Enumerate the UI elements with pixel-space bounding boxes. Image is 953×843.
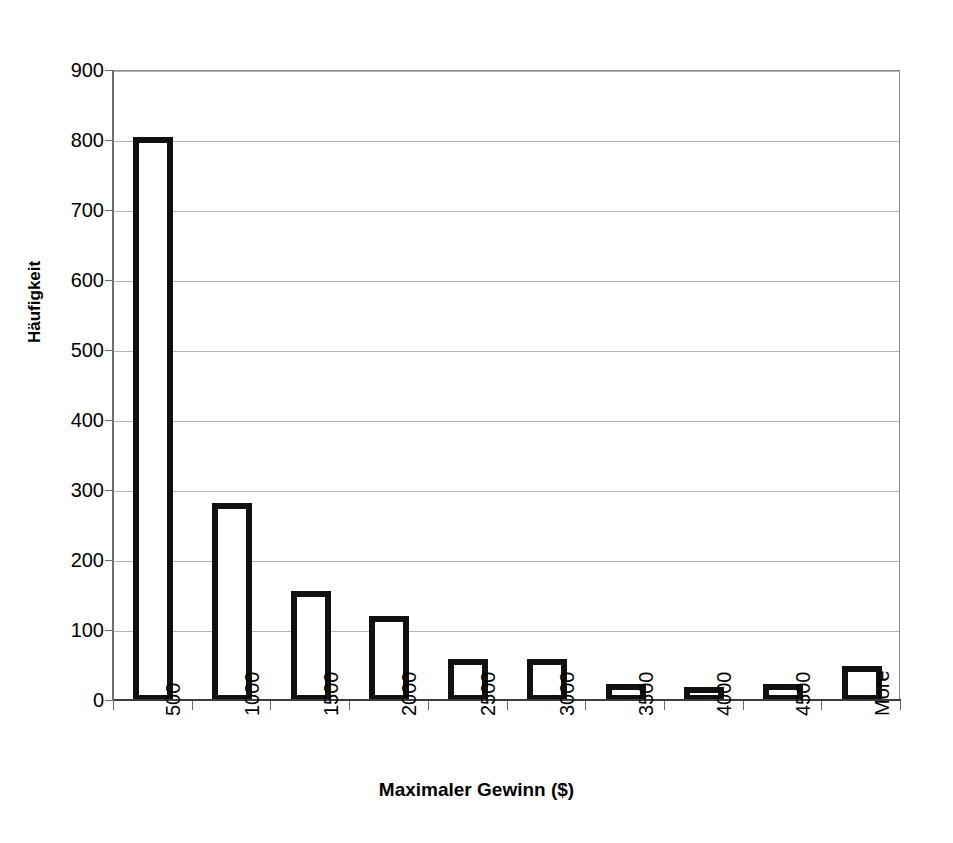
x-tick-mark-end: [900, 701, 901, 710]
x-tick-mark-1: [192, 701, 193, 710]
x-tick-mark-8: [743, 701, 744, 710]
gridline-300: [114, 491, 899, 492]
plot-area: [113, 70, 900, 700]
y-tick-label-900: 900: [52, 60, 104, 80]
y-tick-label-700: 700: [52, 200, 104, 220]
x-tick-mark-2: [270, 701, 271, 710]
y-tick-label-200: 200: [52, 550, 104, 570]
y-tick-label-400: 400: [52, 410, 104, 430]
y-tick-label-500: 500: [52, 340, 104, 360]
gridline-800: [114, 141, 899, 142]
x-tick-label-500: 500: [162, 626, 184, 716]
x-tick-mark-7: [664, 701, 665, 710]
y-tick-label-600: 600: [52, 270, 104, 290]
x-tick-mark-0: [113, 701, 114, 710]
gridline-700: [114, 211, 899, 212]
x-tick-label-3500: 3500: [635, 626, 657, 716]
x-tick-label-4500: 4500: [792, 626, 814, 716]
x-tick-mark-5: [507, 701, 508, 710]
x-tick-label-1500: 1500: [320, 626, 342, 716]
y-axis-line: [112, 70, 114, 701]
x-tick-mark-9: [821, 701, 822, 710]
x-tick-label-More: More: [871, 626, 893, 716]
x-tick-label-1000: 1000: [241, 626, 263, 716]
gridline-500: [114, 351, 899, 352]
gridline-400: [114, 421, 899, 422]
x-tick-label-2000: 2000: [398, 626, 420, 716]
y-axis-tick-labels: 0 100 200 300 400 500 600 700 800 900: [52, 0, 104, 843]
chart-canvas: Häufigkeit 0 100 200 300 400 500 600 700…: [0, 0, 953, 843]
x-tick-label-3000: 3000: [556, 626, 578, 716]
x-axis-title: Maximaler Gewinn ($): [0, 779, 953, 801]
gridline-900: [114, 71, 899, 72]
x-tick-mark-6: [585, 701, 586, 710]
y-axis-title: Häufigkeit: [25, 183, 47, 343]
y-tick-label-100: 100: [52, 620, 104, 640]
x-tick-label-4000: 4000: [713, 626, 735, 716]
y-tick-label-800: 800: [52, 130, 104, 150]
gridline-600: [114, 281, 899, 282]
x-tick-mark-4: [428, 701, 429, 710]
bar-500: [133, 137, 173, 701]
y-tick-label-300: 300: [52, 480, 104, 500]
x-tick-mark-3: [349, 701, 350, 710]
x-tick-label-2500: 2500: [477, 626, 499, 716]
y-tick-label-0: 0: [52, 690, 104, 710]
